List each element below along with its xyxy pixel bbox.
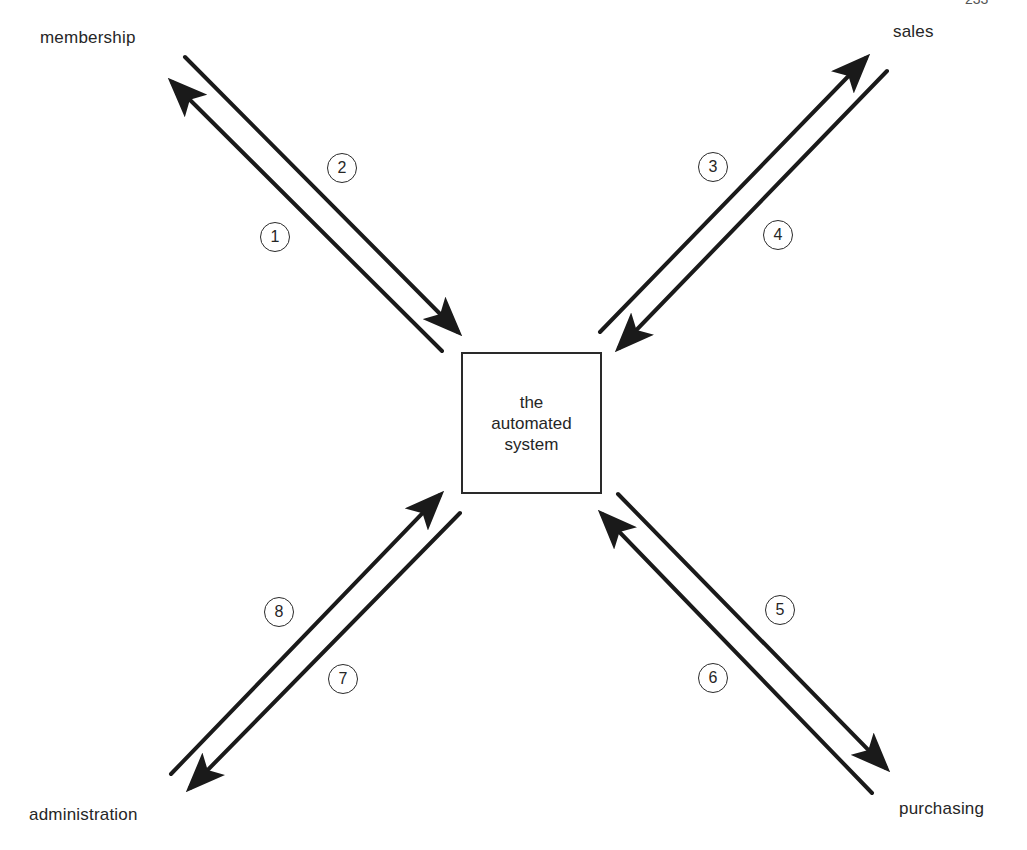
- flow-arrow-6: [602, 514, 872, 793]
- flow-arrow-3: [600, 58, 866, 332]
- flow-badge-3: 3: [698, 152, 728, 182]
- flow-badge-5: 5: [765, 595, 795, 625]
- flow-badge-2: 2: [327, 153, 357, 183]
- flow-arrow-1: [172, 82, 442, 351]
- flow-badge-8: 8: [264, 597, 294, 627]
- flow-arrow-2: [185, 57, 458, 332]
- system-label-line1: the: [520, 392, 544, 413]
- flow-badge-7: 7: [328, 664, 358, 694]
- system-label-line3: system: [505, 434, 559, 455]
- flow-badge-4: 4: [763, 220, 793, 250]
- system-label-line2: automated: [491, 413, 571, 434]
- flow-badge-1: 1: [260, 222, 290, 252]
- entity-purchasing: purchasing: [899, 799, 984, 819]
- entity-membership: membership: [40, 28, 136, 48]
- flow-arrow-5: [618, 494, 886, 768]
- flow-arrow-7: [190, 513, 460, 788]
- flow-arrow-8: [171, 495, 440, 774]
- entity-sales: sales: [893, 22, 934, 42]
- context-diagram: 233 membership sales administration purc…: [0, 0, 1027, 850]
- flow-badge-6: 6: [698, 663, 728, 693]
- flow-arrow-4: [619, 71, 887, 348]
- entity-administration: administration: [29, 805, 138, 825]
- automated-system-box: the automated system: [461, 352, 602, 494]
